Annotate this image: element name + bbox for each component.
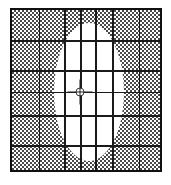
gridline-horizontal-0	[12, 40, 160, 42]
figure-canvas	[0, 0, 171, 185]
plot-frame	[10, 8, 162, 172]
center-crosshair-marker	[76, 88, 85, 97]
gridline-horizontal-3	[12, 115, 160, 117]
gridline-horizontal-1	[12, 70, 160, 72]
gridline-horizontal-4	[12, 145, 160, 147]
